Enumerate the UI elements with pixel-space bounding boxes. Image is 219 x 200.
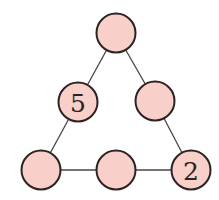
- node-circle: [22, 151, 61, 190]
- node-bottom-middle: [97, 151, 136, 190]
- triangle-diagram: 5 2: [0, 0, 219, 200]
- node-circle: [97, 14, 136, 53]
- node-label: 2: [183, 157, 199, 186]
- node-mid-right: [136, 82, 175, 121]
- node-circle: [136, 82, 175, 121]
- nodes: 5 2: [22, 14, 211, 190]
- node-mid-left: 5: [59, 83, 98, 122]
- node-bottom-left: [22, 151, 61, 190]
- node-label: 5: [70, 89, 86, 118]
- node-circle: [97, 151, 136, 190]
- node-top: [97, 14, 136, 53]
- node-bottom-right: 2: [172, 151, 211, 190]
